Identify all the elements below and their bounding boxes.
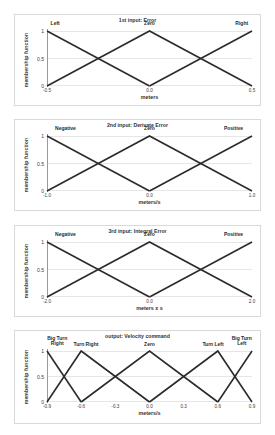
x-tick-mid: 0.0 [146,88,152,93]
x-tick-5: 0.3 [180,404,186,409]
plot-area: 1 0.5 0 -0.9 -0.6 -0.3 0.0 0.3 0.6 0.9 m… [47,351,252,402]
set-label-zero: Zero [144,342,155,347]
chart-title: 3rd input: Integral Error [108,228,166,234]
membership-lines [47,242,252,297]
set-label-zero: Zero [144,126,155,131]
chart-title: output: Velocity command [105,333,170,339]
y-tick-0.5: 0.5 [37,374,44,380]
x-tick-mid: 0.0 [146,299,152,304]
x-tick-min: -1.0 [43,193,51,198]
set-label-negative: Negative [55,126,76,131]
line-zero [47,242,252,297]
set-label-turn-left: Turn Left [202,342,223,347]
set-label-left: Left [51,21,60,26]
set-label-big-turn-left: Big Turn Left [232,336,252,347]
x-tick-mid: 0.0 [146,193,152,198]
y-axis-label: membership function [23,27,29,93]
membership-lines [47,136,252,191]
x-tick-max: 1.0 [249,193,255,198]
chart-panel-2nd-input-derivate-error: membership function 2nd input: Derivate … [14,119,261,211]
chart-4: membership function output: Velocity com… [15,331,260,423]
line-zero [81,351,218,402]
set-label-positive: Positive [224,126,243,131]
y-tick-1: 1 [41,348,44,354]
y-axis-label: membership function [23,238,29,304]
membership-lines [47,351,252,402]
set-label-zero: Zero [144,232,155,237]
y-tick-0.5: 0.5 [37,161,44,167]
y-tick-1: 1 [41,239,44,245]
x-tick-2: -0.6 [77,404,85,409]
x-tick-max: 0.5 [249,88,255,93]
chart-2: membership function 2nd input: Derivate … [15,120,260,210]
set-label-negative: Negative [55,232,76,237]
x-tick-max: 2.0 [249,299,255,304]
set-label-right: Right [235,21,248,26]
x-axis-label: meters x s [136,305,163,311]
membership-lines [47,31,252,86]
x-tick-3: -0.3 [111,404,119,409]
chart-title: 2nd input: Derivate Error [107,122,168,128]
x-axis-label: meters/s [138,199,160,205]
x-tick-6: 0.6 [215,404,221,409]
chart-1: membership function 1st input: Error 1 0… [15,15,260,105]
plot-area: 1 0.5 0 -1.0 0.0 1.0 meters/s Negative Z… [47,136,252,191]
y-axis-label: membership function [23,344,29,410]
figure-sheet: membership function 1st input: Error 1 0… [0,0,275,435]
x-axis-label: meters [141,94,159,100]
line-turn-left [150,351,253,402]
line-zero [47,136,252,191]
line-turn-right [47,351,150,402]
chart-3: membership function 3rd input: Integral … [15,226,260,316]
chart-panel-output-velocity-command: membership function output: Velocity com… [14,330,261,424]
x-axis-label: meters/s [138,410,160,416]
plot-area: 1 0.5 0 -2.0 0.0 2.0 meters x s Negative… [47,242,252,297]
x-tick-min: -2.0 [43,299,51,304]
x-tick-min: -0.5 [43,88,51,93]
set-label-turn-right: Turn Right [73,342,98,347]
x-tick-1: -0.9 [43,404,51,409]
x-tick-7: 0.9 [249,404,255,409]
y-tick-0.5: 0.5 [37,267,44,273]
y-tick-1: 1 [41,28,44,34]
set-label-big-turn-right: Big Turn Right [47,336,67,347]
plot-area: 1 0.5 0 -0.5 0.0 0.5 meters Left Zero Ri… [47,31,252,86]
y-tick-0.5: 0.5 [37,56,44,62]
y-axis-label: membership function [23,132,29,198]
line-zero [47,31,252,86]
x-tick-4: 0.0 [146,404,152,409]
set-label-zero: Zero [144,21,155,26]
chart-panel-1st-input-error: membership function 1st input: Error 1 0… [14,14,261,106]
y-tick-1: 1 [41,133,44,139]
set-label-line-2: Left [237,340,246,346]
set-label-line-2: Right [51,340,64,346]
chart-panel-3rd-input-integral-error: membership function 3rd input: Integral … [14,225,261,317]
set-label-positive: Positive [224,232,243,237]
